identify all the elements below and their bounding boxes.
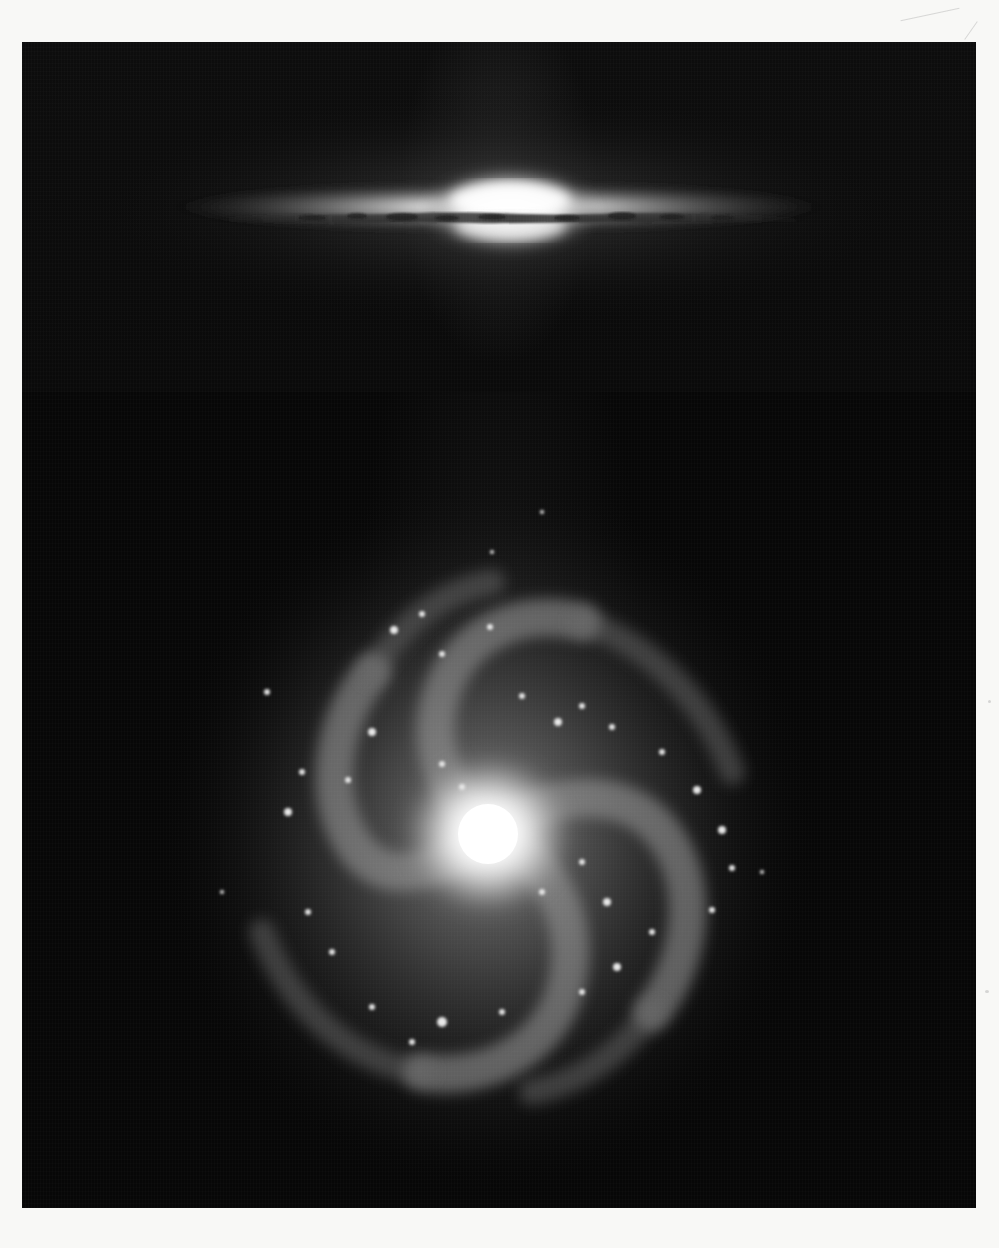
scan-artifact-line <box>964 21 977 40</box>
face-on-spiral-galaxy-image <box>22 392 976 1208</box>
photo-panel <box>22 42 976 1208</box>
edge-on-galaxy-image <box>22 42 976 392</box>
scanned-page <box>0 0 999 1248</box>
page-speck <box>988 700 991 703</box>
scan-artifact-line <box>901 8 960 21</box>
face-on-galaxy-frame <box>22 392 976 1208</box>
edge-on-galaxy-frame <box>22 42 976 392</box>
page-speck <box>985 990 989 993</box>
